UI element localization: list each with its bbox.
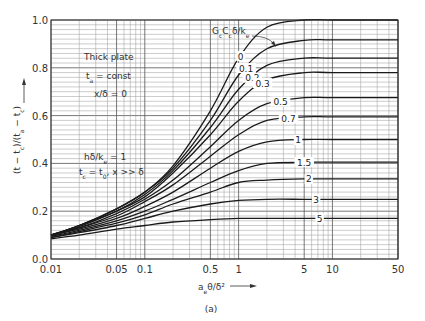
x-tick-label: 0.05 bbox=[105, 264, 127, 275]
svg-text:aeθ/δ²: aeθ/δ² bbox=[198, 282, 225, 295]
x-tick-label: 5 bbox=[301, 264, 307, 275]
figure-caption: (a) bbox=[205, 304, 218, 314]
y-tick-label: 0.8 bbox=[32, 63, 48, 74]
x-axis-arrow-icon bbox=[230, 284, 257, 288]
svg-text:(t − tc)/(ta − tc): (t − tc)/(ta − tc) bbox=[12, 106, 25, 174]
curve-label: 1.5 bbox=[297, 158, 311, 168]
curve-label: 0.1 bbox=[239, 64, 253, 74]
note-ta-const: ta = const bbox=[86, 71, 131, 84]
curve-label: 0.7 bbox=[281, 114, 295, 124]
x-tick-label: 0.5 bbox=[202, 264, 218, 275]
curve-label: 2 bbox=[306, 174, 312, 184]
x-tick-label: 50 bbox=[392, 264, 405, 275]
note-x-delta: x/δ = 0 bbox=[94, 89, 127, 99]
curve-label: 0.5 bbox=[273, 97, 287, 107]
curve-label: 5 bbox=[317, 214, 323, 224]
y-tick-label: 1.0 bbox=[32, 15, 48, 26]
curve-0-1 bbox=[51, 40, 398, 236]
curve-label: 1 bbox=[295, 135, 301, 145]
note-thick-plate: Thick plate bbox=[83, 52, 134, 62]
curve-label: 0.3 bbox=[255, 79, 269, 89]
y-axis-label: (t − tc)/(ta − tc) bbox=[12, 106, 25, 174]
y-axis-arrow-icon bbox=[22, 78, 26, 103]
y-tick-label: 0.6 bbox=[32, 111, 48, 122]
x-axis-label: aeθ/δ² bbox=[198, 282, 225, 295]
x-tick-label: 0.1 bbox=[137, 264, 153, 275]
x-tick-label: 10 bbox=[326, 264, 339, 275]
chart: 00.10.20.30.50.711.5235 0.010.050.10.515… bbox=[0, 0, 425, 321]
y-tick-label: 0.4 bbox=[32, 158, 48, 169]
y-tick-label: 0.0 bbox=[32, 254, 48, 265]
x-tick-label: 1 bbox=[235, 264, 241, 275]
curve-labels: 00.10.20.30.50.711.5235 bbox=[236, 51, 324, 224]
curve-label: 3 bbox=[313, 195, 319, 205]
x-tick-label: 0.01 bbox=[40, 264, 62, 275]
param-pointer-arrow-icon bbox=[252, 36, 276, 47]
curve-label: 0 bbox=[238, 52, 244, 62]
y-tick-label: 0.2 bbox=[32, 206, 48, 217]
